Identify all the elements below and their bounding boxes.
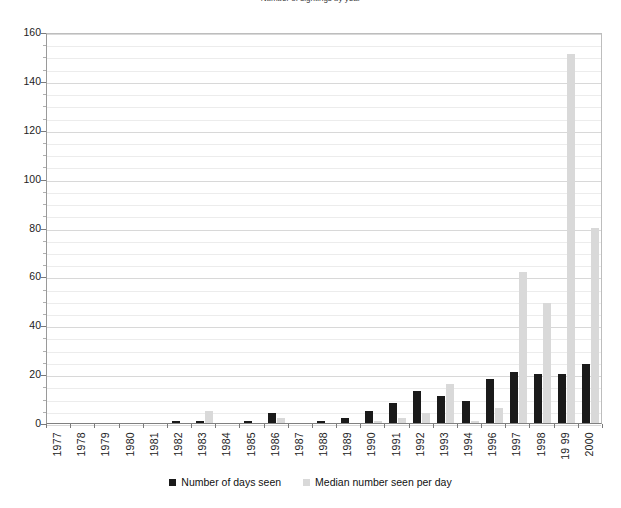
legend-entry: Median number seen per day <box>303 476 452 488</box>
x-axis-tick-mark <box>578 424 579 428</box>
bar-days-seen <box>341 418 349 423</box>
x-axis-tick-mark <box>529 424 530 428</box>
x-axis-tick-mark <box>94 424 95 428</box>
x-axis-tick-mark <box>433 424 434 428</box>
x-axis-tick-mark <box>360 424 361 428</box>
x-axis-tick-mark <box>143 424 144 428</box>
legend-swatch-icon <box>303 479 310 486</box>
bar-days-seen <box>268 413 276 423</box>
x-axis-tick-label: 1996 <box>487 432 498 457</box>
bar-days-seen <box>365 411 373 423</box>
x-axis-tick-label: 1979 <box>100 432 111 457</box>
x-axis-tick-mark <box>505 424 506 428</box>
x-axis-tick-mark <box>409 424 410 428</box>
x-axis-tick-label: 1977 <box>52 432 63 457</box>
x-axis-tick-mark <box>336 424 337 428</box>
x-axis-tick-label: 1993 <box>439 432 450 457</box>
gridline-minor <box>47 388 601 389</box>
bar-median-per-day <box>495 408 503 423</box>
y-axis-tick-label: 160 <box>1 27 41 38</box>
x-axis-tick-mark <box>239 424 240 428</box>
x-axis-tick-label: 1991 <box>391 432 402 457</box>
x-axis-tick-label: 1987 <box>294 432 305 457</box>
gridline-minor <box>47 144 601 145</box>
gridline-minor <box>47 315 601 316</box>
bar-days-seen <box>582 364 590 423</box>
x-axis-tick-label: 1981 <box>149 432 160 457</box>
gridline-minor <box>47 107 601 108</box>
gridline-minor <box>47 266 601 267</box>
y-axis-tick-label: 0 <box>1 418 41 429</box>
gridline-major <box>47 376 601 377</box>
legend-entry: Number of days seen <box>169 476 281 488</box>
bar-days-seen <box>534 374 542 423</box>
y-axis-tick-label: 40 <box>1 320 41 331</box>
bar-days-seen <box>413 391 421 423</box>
bar-median-per-day <box>205 411 213 423</box>
bar-median-per-day <box>567 54 575 423</box>
gridline-minor <box>47 303 601 304</box>
bar-median-per-day <box>471 421 479 423</box>
legend-label: Number of days seen <box>181 476 281 488</box>
chart-legend: Number of days seenMedian number seen pe… <box>0 476 621 488</box>
gridline-major <box>47 327 601 328</box>
x-axis-tick-mark <box>46 424 47 428</box>
gridline-minor <box>47 193 601 194</box>
y-axis-tick-label: 20 <box>1 369 41 380</box>
gridline-minor <box>47 291 601 292</box>
x-axis-tick-mark <box>312 424 313 428</box>
legend-label: Median number seen per day <box>315 476 452 488</box>
bar-median-per-day <box>422 413 430 423</box>
bar-days-seen <box>486 379 494 423</box>
gridline-minor <box>47 71 601 72</box>
x-axis-tick-label: 1994 <box>463 432 474 457</box>
x-axis-tick-mark <box>602 424 603 428</box>
gridline-minor <box>47 156 601 157</box>
bar-days-seen <box>462 401 470 423</box>
bar-days-seen <box>389 403 397 423</box>
x-axis-tick-label: 1985 <box>246 432 257 457</box>
x-axis-tick-label: 1980 <box>125 432 136 457</box>
y-axis-tick-label: 140 <box>1 76 41 87</box>
bar-median-per-day <box>591 228 599 424</box>
bar-median-per-day <box>277 418 285 423</box>
bar-days-seen <box>437 396 445 423</box>
gridline-minor <box>47 401 601 402</box>
x-axis-tick-label: 1988 <box>318 432 329 457</box>
gridline-major <box>47 230 601 231</box>
gridline-minor <box>47 46 601 47</box>
gridline-major <box>47 34 601 35</box>
x-axis-tick-label: 2000 <box>584 432 595 457</box>
bar-median-per-day <box>543 303 551 423</box>
x-axis-tick-mark <box>481 424 482 428</box>
x-axis-tick-label: 1983 <box>197 432 208 457</box>
bar-days-seen <box>172 421 180 423</box>
y-axis-tick-label: 120 <box>1 125 41 136</box>
y-axis-tick-label: 80 <box>1 223 41 234</box>
bar-days-seen <box>196 421 204 423</box>
x-axis-tick-label: 1990 <box>366 432 377 457</box>
x-axis-tick-label: 19 99 <box>560 432 571 460</box>
y-axis-tick-label: 60 <box>1 271 41 282</box>
bar-days-seen <box>510 372 518 423</box>
gridline-minor <box>47 413 601 414</box>
gridline-minor <box>47 205 601 206</box>
x-axis-tick-label: 1982 <box>173 432 184 457</box>
legend-swatch-icon <box>169 479 176 486</box>
gridline-major <box>47 83 601 84</box>
bar-median-per-day <box>398 418 406 423</box>
x-axis-tick-label: 1992 <box>415 432 426 457</box>
x-axis-tick-label: 1978 <box>76 432 87 457</box>
x-axis-tick-mark <box>264 424 265 428</box>
x-axis-tick-mark <box>215 424 216 428</box>
bar-median-per-day <box>374 421 382 423</box>
x-axis-tick-label: 1997 <box>511 432 522 457</box>
gridline-major <box>47 278 601 279</box>
gridline-minor <box>47 217 601 218</box>
x-axis-tick-mark <box>384 424 385 428</box>
gridline-minor <box>47 120 601 121</box>
x-axis-tick-mark <box>554 424 555 428</box>
plot-area <box>46 33 602 424</box>
bar-days-seen <box>317 421 325 423</box>
bar-chart: Number of sightings by year 020406080100… <box>0 0 621 508</box>
